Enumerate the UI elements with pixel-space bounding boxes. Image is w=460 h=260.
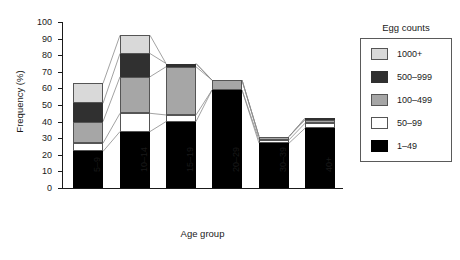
y-tick: 90 xyxy=(58,39,62,40)
bar-segment xyxy=(73,143,103,151)
legend-swatch-icon xyxy=(371,71,388,83)
y-tick: 40 xyxy=(58,122,62,123)
legend-item-label: 50–99 xyxy=(397,118,422,128)
y-tick-label: 10 xyxy=(42,167,52,176)
bar-segment xyxy=(212,90,242,188)
bar-segment xyxy=(259,137,289,140)
legend-swatch-icon xyxy=(371,48,388,60)
bar-segment xyxy=(73,122,103,144)
x-tick-label: 20–29 xyxy=(231,147,241,172)
x-tick-label: 30–39 xyxy=(278,147,288,172)
legend-swatch-icon xyxy=(371,140,388,152)
legend-item[interactable]: 1–49 xyxy=(371,140,417,152)
segment-connector-lines xyxy=(62,22,340,188)
y-tick: 10 xyxy=(58,171,62,172)
y-tick: 100 xyxy=(58,22,62,23)
legend-swatch-icon xyxy=(371,117,388,129)
legend-item[interactable]: 100–499 xyxy=(371,94,432,106)
y-axis-line xyxy=(62,22,63,188)
y-tick-label: 90 xyxy=(42,34,52,43)
plot-area: 0102030405060708090100 xyxy=(62,22,340,188)
bar-segment xyxy=(212,80,242,90)
bar-segment xyxy=(259,140,289,143)
stacked-bar-chart-figure: Frequency (%) 0102030405060708090100 Age… xyxy=(0,0,460,260)
y-tick-label: 0 xyxy=(47,184,52,193)
bar-segment xyxy=(120,54,150,77)
bar-segment xyxy=(120,113,150,131)
y-tick-label: 40 xyxy=(42,117,52,126)
legend-item[interactable]: 50–99 xyxy=(371,117,422,129)
y-tick: 80 xyxy=(58,55,62,56)
x-tick-label: 15–19 xyxy=(185,147,195,172)
y-tick-label: 60 xyxy=(42,84,52,93)
y-tick: 20 xyxy=(58,155,62,156)
x-tick-label: 5–9 xyxy=(92,157,102,172)
x-axis-title: Age group xyxy=(62,228,343,239)
bar-segment xyxy=(305,123,335,128)
y-tick: 0 xyxy=(58,188,62,189)
y-axis-title: Frequency (%) xyxy=(14,47,25,157)
bar-segment xyxy=(305,118,335,120)
bar-segment xyxy=(120,77,150,114)
x-tick-label: 10–14 xyxy=(139,147,149,172)
y-tick: 70 xyxy=(58,72,62,73)
y-tick-label: 50 xyxy=(42,101,52,110)
bar-segment xyxy=(166,67,196,115)
y-tick-label: 30 xyxy=(42,134,52,143)
legend-swatch-icon xyxy=(371,94,388,106)
y-tick: 60 xyxy=(58,88,62,89)
legend-item-label: 100–499 xyxy=(397,95,432,105)
legend-box: 1000+500–999100–49950–991–49 xyxy=(360,38,452,162)
legend-item-label: 1–49 xyxy=(397,141,417,151)
legend-item-label: 1000+ xyxy=(397,49,422,59)
bar-segment xyxy=(120,35,150,53)
y-tick: 50 xyxy=(58,105,62,106)
y-tick-label: 20 xyxy=(42,150,52,159)
bar-segment xyxy=(166,64,196,67)
legend-item[interactable]: 1000+ xyxy=(371,48,422,60)
legend-title: Egg counts xyxy=(358,22,454,33)
y-tick-label: 80 xyxy=(42,51,52,60)
bar-segment xyxy=(166,115,196,122)
y-tick-label: 70 xyxy=(42,67,52,76)
bar-segment xyxy=(73,83,103,103)
x-axis-line xyxy=(62,188,343,189)
legend-item-label: 500–999 xyxy=(397,72,432,82)
y-tick: 30 xyxy=(58,138,62,139)
x-tick-label: 40+ xyxy=(324,157,334,172)
bar-segment xyxy=(73,103,103,121)
legend-item[interactable]: 500–999 xyxy=(371,71,432,83)
bar-segment xyxy=(305,120,335,123)
y-tick-label: 100 xyxy=(37,18,52,27)
